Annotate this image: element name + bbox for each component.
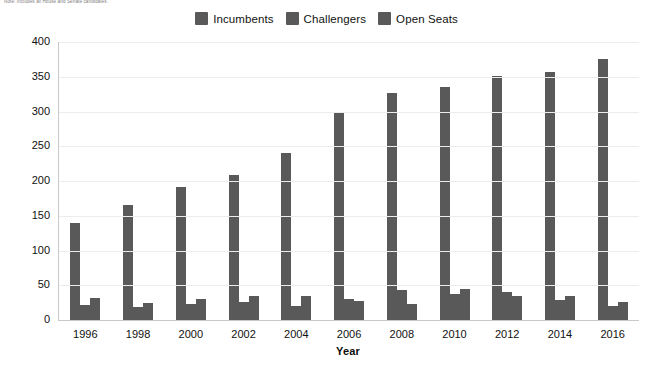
x-axis-tick: 1996 bbox=[73, 328, 97, 340]
bar-open-seats-2016[interactable] bbox=[618, 302, 628, 320]
bar-challengers-2014[interactable] bbox=[555, 300, 565, 320]
bar-incumbents-1998[interactable] bbox=[123, 205, 133, 320]
x-axis-tick: 2000 bbox=[179, 328, 203, 340]
y-axis-tick: 200 bbox=[0, 174, 50, 186]
legend-label: Challengers bbox=[304, 13, 366, 25]
bar-incumbents-2000[interactable] bbox=[176, 187, 186, 320]
bar-challengers-2006[interactable] bbox=[344, 299, 354, 320]
bar-challengers-2008[interactable] bbox=[397, 290, 407, 320]
x-axis-tick: 2016 bbox=[600, 328, 624, 340]
bar-challengers-2002[interactable] bbox=[239, 302, 249, 320]
bar-open-seats-2008[interactable] bbox=[407, 304, 417, 320]
x-axis-tick: 2002 bbox=[231, 328, 255, 340]
legend-item-challengers[interactable]: Challengers bbox=[286, 12, 366, 25]
x-axis-tick: 2004 bbox=[284, 328, 308, 340]
x-axis-tick: 2010 bbox=[442, 328, 466, 340]
y-axis-tick: 400 bbox=[0, 35, 50, 47]
legend-square-icon bbox=[195, 12, 208, 25]
bar-challengers-2012[interactable] bbox=[502, 292, 512, 320]
bar-incumbents-2016[interactable] bbox=[598, 59, 608, 320]
gridline bbox=[59, 77, 639, 78]
bar-incumbents-2002[interactable] bbox=[229, 175, 239, 320]
y-axis-tick: 250 bbox=[0, 139, 50, 151]
bar-challengers-2004[interactable] bbox=[291, 306, 301, 320]
bar-open-seats-2004[interactable] bbox=[301, 296, 311, 320]
legend-item-incumbents[interactable]: Incumbents bbox=[195, 12, 273, 25]
x-axis-label: Year bbox=[58, 345, 638, 357]
gridline bbox=[59, 216, 639, 217]
bar-challengers-2010[interactable] bbox=[450, 294, 460, 320]
y-axis-tick: 100 bbox=[0, 244, 50, 256]
y-axis-tick: 350 bbox=[0, 70, 50, 82]
chart-note: Note: Includes all House and Senate cand… bbox=[4, 0, 108, 5]
y-axis-tick: 150 bbox=[0, 209, 50, 221]
bar-open-seats-2006[interactable] bbox=[354, 301, 364, 320]
legend-item-open-seats[interactable]: Open Seats bbox=[378, 12, 458, 25]
bar-open-seats-2002[interactable] bbox=[249, 296, 259, 320]
bar-open-seats-1998[interactable] bbox=[143, 303, 153, 320]
gridline bbox=[59, 112, 639, 113]
legend-label: Incumbents bbox=[213, 13, 273, 25]
y-axis-tick: 300 bbox=[0, 105, 50, 117]
gridline bbox=[59, 42, 639, 43]
y-axis-tick: 50 bbox=[0, 278, 50, 290]
legend-square-icon bbox=[286, 12, 299, 25]
legend-square-icon bbox=[378, 12, 391, 25]
bar-challengers-2000[interactable] bbox=[186, 304, 196, 320]
legend-label: Open Seats bbox=[396, 13, 458, 25]
y-axis-tick: 0 bbox=[0, 313, 50, 325]
bar-open-seats-2014[interactable] bbox=[565, 296, 575, 320]
chart-legend: IncumbentsChallengersOpen Seats bbox=[0, 12, 653, 25]
bar-chart: Note: Includes all House and Senate cand… bbox=[0, 0, 653, 366]
x-axis-tick: 2006 bbox=[337, 328, 361, 340]
bar-incumbents-2004[interactable] bbox=[281, 153, 291, 320]
gridline bbox=[59, 285, 639, 286]
bar-incumbents-2012[interactable] bbox=[492, 76, 502, 320]
x-axis-tick: 2012 bbox=[495, 328, 519, 340]
bar-open-seats-1996[interactable] bbox=[90, 298, 100, 320]
bar-incumbents-1996[interactable] bbox=[70, 223, 80, 320]
bar-challengers-2016[interactable] bbox=[608, 306, 618, 320]
gridline bbox=[59, 146, 639, 147]
bar-incumbents-2014[interactable] bbox=[545, 72, 555, 320]
gridline bbox=[59, 251, 639, 252]
x-axis-tick: 2014 bbox=[548, 328, 572, 340]
bar-challengers-1996[interactable] bbox=[80, 305, 90, 320]
bar-open-seats-2012[interactable] bbox=[512, 296, 522, 320]
x-axis-tick: 1998 bbox=[126, 328, 150, 340]
x-axis-tick: 2008 bbox=[390, 328, 414, 340]
gridline bbox=[59, 181, 639, 182]
bar-open-seats-2010[interactable] bbox=[460, 289, 470, 320]
bar-open-seats-2000[interactable] bbox=[196, 299, 206, 320]
bar-challengers-1998[interactable] bbox=[133, 307, 143, 320]
plot-area: 1996199820002002200420062008201020122014… bbox=[58, 42, 639, 321]
